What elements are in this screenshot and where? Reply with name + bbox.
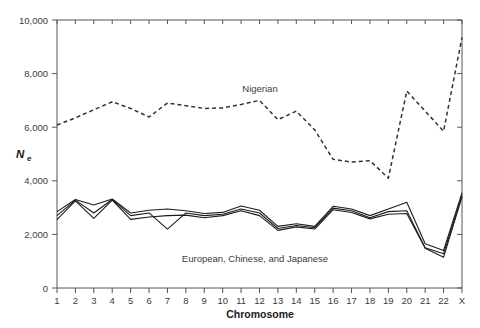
x-tick-label-15: 15: [309, 295, 320, 306]
chart-figure: 02,0004,0006,0008,00010,000 123456789101…: [0, 0, 480, 328]
x-tick-label-3: 3: [91, 295, 96, 306]
chart-background: [0, 0, 480, 328]
x-tick-label-6: 6: [146, 295, 151, 306]
nigerian-series-label: Nigerian: [242, 83, 277, 94]
x-tick-label-18: 18: [365, 295, 376, 306]
y-tick-label: 2,000: [24, 229, 48, 240]
y-axis-label-main: N: [16, 148, 25, 160]
y-tick-label: 0: [43, 283, 48, 294]
x-tick-label-19: 19: [383, 295, 394, 306]
eurasian-series-label: European, Chinese, and Japanese: [182, 253, 328, 264]
x-tick-label-16: 16: [328, 295, 339, 306]
x-tick-label-8: 8: [183, 295, 188, 306]
x-tick-label-13: 13: [273, 295, 284, 306]
y-tick-label: 4,000: [24, 175, 48, 186]
x-tick-label-9: 9: [202, 295, 207, 306]
y-axis-label-sub: e: [27, 154, 32, 163]
x-tick-label-X: X: [459, 295, 466, 306]
y-tick-label: 8,000: [24, 68, 48, 79]
x-tick-label-22: 22: [438, 295, 449, 306]
y-tick-label: 10,000: [19, 15, 48, 26]
x-tick-label-20: 20: [401, 295, 412, 306]
x-tick-label-11: 11: [236, 295, 246, 306]
x-axis-title: Chromosome: [226, 308, 294, 320]
x-tick-label-12: 12: [254, 295, 265, 306]
x-tick-label-4: 4: [110, 295, 115, 306]
y-tick-label: 6,000: [24, 122, 48, 133]
x-tick-label-21: 21: [420, 295, 431, 306]
x-tick-label-10: 10: [217, 295, 228, 306]
x-tick-label-1: 1: [54, 295, 59, 306]
x-tick-label-7: 7: [165, 295, 170, 306]
x-tick-label-2: 2: [73, 295, 78, 306]
x-tick-label-14: 14: [291, 295, 302, 306]
x-tick-label-5: 5: [128, 295, 133, 306]
x-tick-label-17: 17: [346, 295, 357, 306]
